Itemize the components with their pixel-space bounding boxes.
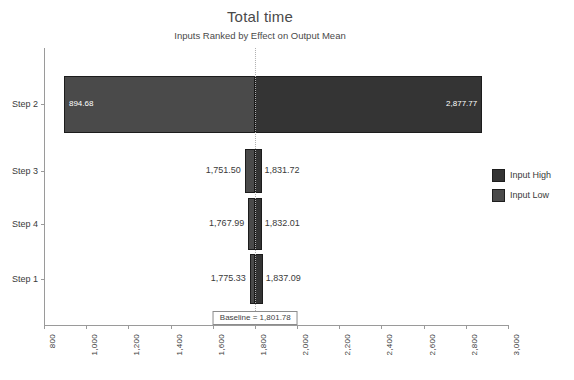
- x-axis-tick-label: 1,200: [132, 334, 141, 356]
- bar-value-label-low: 1,775.33: [194, 274, 246, 283]
- tornado-bar-row[interactable]: 1,751.501,831.72: [0, 149, 574, 193]
- bar-value-label-high: 1,832.01: [265, 219, 300, 228]
- x-axis-tick-label: 3,000: [512, 334, 521, 356]
- x-axis-tick: [86, 325, 87, 329]
- x-axis-tick-label: 2,400: [385, 334, 394, 356]
- x-axis-tick-label: 2,800: [470, 334, 479, 356]
- legend-label: Input Low: [510, 190, 549, 200]
- legend-item[interactable]: Input High: [492, 167, 551, 183]
- legend-item[interactable]: Input Low: [492, 187, 551, 203]
- chart-subtitle: Inputs Ranked by Effect on Output Mean: [0, 30, 520, 41]
- bar-value-label-low: 894.68: [69, 100, 93, 108]
- bar-value-label-high: 2,877.77: [430, 100, 477, 108]
- tornado-bar-row[interactable]: 1,767.991,832.01: [0, 198, 574, 250]
- bar-segment-input-low[interactable]: [248, 198, 255, 250]
- x-axis-tick: [424, 325, 425, 329]
- x-axis-tick: [128, 325, 129, 329]
- x-axis-tick-label: 800: [48, 334, 57, 348]
- legend-swatch-icon: [492, 169, 505, 182]
- x-axis-tick: [508, 325, 509, 329]
- x-axis-tick: [171, 325, 172, 329]
- tornado-bar-row[interactable]: 894.682,877.77: [0, 76, 574, 133]
- x-axis-tick: [213, 325, 214, 329]
- x-axis-tick: [44, 325, 45, 329]
- baseline-label: Baseline = 1,801.78: [213, 311, 298, 325]
- bar-value-label-low: 1,751.50: [189, 166, 241, 175]
- x-axis-tick: [339, 325, 340, 329]
- bar-value-label-high: 1,831.72: [265, 166, 300, 175]
- bar-segment-input-low[interactable]: [245, 149, 256, 193]
- legend-swatch-icon: [492, 189, 505, 202]
- bar-value-label-low: 1,767.99: [192, 219, 244, 228]
- chart-legend: Input HighInput Low: [492, 167, 551, 207]
- bar-value-label-high: 1,837.09: [266, 274, 301, 283]
- baseline-line: [255, 48, 257, 325]
- x-axis-tick-label: 1,800: [259, 334, 268, 356]
- x-axis-tick: [297, 325, 298, 329]
- x-axis-tick: [255, 325, 256, 329]
- x-axis-tick: [381, 325, 382, 329]
- x-axis-tick: [466, 325, 467, 329]
- x-axis-tick-label: 1,600: [217, 334, 226, 356]
- x-axis-tick-label: 2,600: [428, 334, 437, 356]
- tornado-bar-row[interactable]: 1,775.331,837.09: [0, 254, 574, 304]
- x-axis-line: [44, 325, 509, 326]
- legend-label: Input High: [510, 170, 551, 180]
- x-axis-tick-label: 2,200: [343, 334, 352, 356]
- x-axis-tick-label: 1,400: [175, 334, 184, 356]
- chart-title: Total time: [0, 8, 520, 25]
- x-axis-tick-label: 1,000: [90, 334, 99, 356]
- x-axis-tick-label: 2,000: [301, 334, 310, 356]
